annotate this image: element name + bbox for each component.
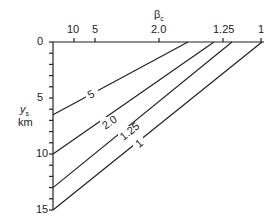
left-tick-label: 0 bbox=[37, 36, 43, 47]
beta-line-1-25 bbox=[53, 42, 232, 188]
top-tick-label: 2.0 bbox=[151, 24, 166, 35]
beta-line-5 bbox=[53, 42, 188, 115]
beta-line-1 bbox=[53, 42, 262, 210]
top-axis-title: βc bbox=[154, 9, 164, 22]
left-tick-label: 15 bbox=[36, 204, 48, 215]
top-tick-label: 5 bbox=[92, 24, 98, 35]
left-tick-label: 10 bbox=[36, 148, 48, 159]
left-tick-label: 5 bbox=[37, 92, 43, 103]
left-axis-unit: km bbox=[18, 117, 33, 128]
top-tick-label: 1 bbox=[258, 24, 264, 35]
top-tick-label: 10 bbox=[67, 24, 79, 35]
top-tick-label: 1.25 bbox=[213, 24, 234, 35]
diagram-canvas bbox=[0, 0, 279, 223]
